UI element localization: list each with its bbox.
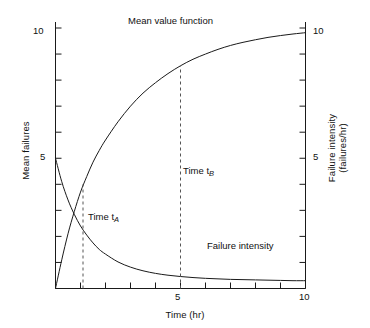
failure-intensity-label: Failure intensity (207, 240, 274, 251)
mean-value-function-label: Mean value function (128, 15, 213, 26)
x-tick-label-5: 5 (175, 291, 180, 302)
time-ta-annotation-label: Time tA (88, 211, 119, 224)
time-tb-prefix: Time t (183, 165, 209, 176)
time-tb-subscript: B (209, 169, 214, 178)
y-right-tick-label-5: 5 (313, 151, 318, 162)
y-axis-right-title: Failure intensity (failures/hr) (326, 100, 348, 196)
y-axis-left-title: Mean failures (20, 106, 31, 196)
y-axis-right-title-line2: (failures/hr) (337, 100, 348, 196)
y-axis-right-title-line1: Failure intensity (326, 100, 337, 196)
time-ta-subscript: A (114, 215, 119, 224)
y-left-tick-label-5: 5 (40, 151, 45, 162)
time-tb-annotation-label: Time tB (183, 165, 214, 178)
x-tick-label-10: 10 (299, 291, 310, 302)
time-ta-prefix: Time t (88, 211, 114, 222)
y-left-tick-label-10: 10 (33, 25, 44, 36)
chart-canvas (0, 0, 370, 328)
x-axis-title: Time (hr) (145, 309, 225, 320)
annotations-group (83, 66, 181, 289)
y-right-tick-label-10: 10 (313, 25, 324, 36)
figure-container: Mean failures Failure intensity (failure… (0, 0, 370, 328)
